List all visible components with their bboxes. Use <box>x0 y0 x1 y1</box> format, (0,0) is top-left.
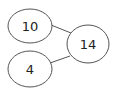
connector-top <box>51 25 71 33</box>
part-label-bottom: 4 <box>26 62 34 77</box>
connector-bottom <box>50 56 70 63</box>
part-label-top: 10 <box>22 19 39 34</box>
whole-label: 14 <box>80 37 97 52</box>
number-bond-diagram: 10 4 14 <box>0 0 115 89</box>
